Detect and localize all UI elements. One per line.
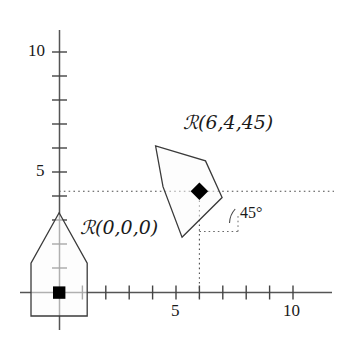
pentagon-rotated-outline bbox=[156, 146, 223, 237]
angle-arc-group bbox=[230, 209, 236, 223]
x-axis-label-5: 5 bbox=[171, 302, 180, 319]
pentagon-rotated bbox=[156, 146, 223, 237]
pentagon-unrotated bbox=[31, 213, 87, 316]
figure-canvas: 10 5 5 10 ℛ(0,0,0) ℛ(6,4,45) 45° bbox=[0, 0, 338, 350]
x-axis-label-10: 10 bbox=[283, 302, 300, 319]
pentagon-unrotated-label: ℛ(0,0,0) bbox=[80, 218, 158, 237]
y-axis-label-10: 10 bbox=[28, 42, 45, 59]
pentagon-unrotated-outline bbox=[31, 213, 87, 316]
diagram-svg bbox=[0, 0, 338, 350]
anchor-square-marker bbox=[53, 286, 65, 298]
y-axis-label-5: 5 bbox=[36, 162, 45, 179]
angle-label: 45° bbox=[240, 205, 262, 221]
pentagon-rotated-label: ℛ(6,4,45) bbox=[183, 113, 273, 132]
angle-arc bbox=[230, 209, 236, 223]
